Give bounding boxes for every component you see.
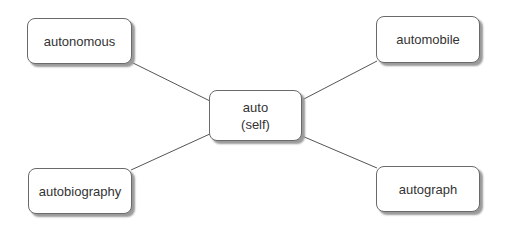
node-autonomous: autonomous [27, 18, 132, 64]
center-label-line1: auto [243, 99, 268, 116]
node-automobile: automobile [376, 16, 480, 63]
node-label: autonomous [44, 33, 116, 50]
link-autograph [302, 136, 377, 168]
node-autobiography: autobiography [28, 168, 132, 214]
link-autobiography [131, 133, 212, 170]
node-label: automobile [396, 31, 460, 48]
center-label-line2: (self) [241, 116, 270, 133]
node-center-auto: auto (self) [209, 90, 302, 141]
node-autograph: autograph [376, 166, 480, 212]
link-autonomous [131, 62, 210, 101]
node-label: autobiography [39, 183, 121, 200]
node-label: autograph [399, 181, 458, 198]
link-automobile [302, 61, 377, 100]
